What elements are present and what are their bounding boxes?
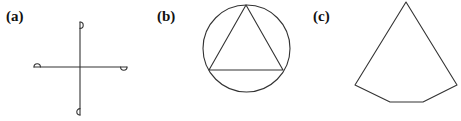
diagram-canvas [0, 0, 461, 121]
panel-b-figure [203, 5, 290, 92]
pentagon [355, 2, 457, 102]
panel-a-cross [34, 22, 127, 115]
inscribed-triangle [209, 5, 283, 70]
circumscribed-circle [203, 5, 290, 92]
panel-c-figure [355, 2, 457, 102]
